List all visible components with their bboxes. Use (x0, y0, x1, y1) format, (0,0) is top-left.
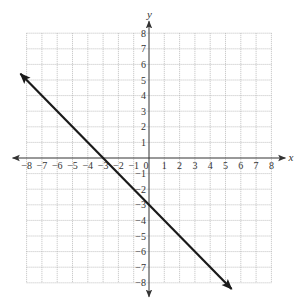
x-tick-label: 4 (208, 160, 213, 171)
y-tick-label: 2 (141, 121, 146, 132)
x-tick-label: −4 (82, 160, 93, 171)
y-tick-label: 3 (141, 106, 146, 117)
x-tick-label: 5 (223, 160, 228, 171)
line-series (20, 74, 231, 289)
x-tick-label: 8 (269, 160, 274, 171)
y-tick-label: 6 (141, 59, 146, 70)
plotted-line (20, 74, 231, 289)
x-tick-label: −7 (37, 160, 48, 171)
y-tick-label: −6 (135, 246, 146, 257)
y-tick-label: −4 (135, 215, 146, 226)
x-tick-label: 3 (192, 160, 197, 171)
x-tick-label: 6 (238, 160, 243, 171)
y-tick-label: 4 (141, 90, 146, 101)
y-tick-label: −7 (135, 262, 146, 273)
x-tick-label: 2 (177, 160, 182, 171)
y-tick-label: 1 (141, 137, 146, 148)
y-tick-label: −5 (135, 231, 146, 242)
y-tick-label: −8 (135, 277, 146, 288)
x-tick-label: 1 (162, 160, 167, 171)
x-tick-label: 7 (254, 160, 259, 171)
y-tick-label: −1 (135, 168, 146, 179)
y-tick-label: 5 (141, 75, 146, 86)
axes (13, 21, 286, 297)
y-axis-label: y (146, 8, 152, 20)
x-tick-label: −6 (52, 160, 63, 171)
x-tick-label: −5 (67, 160, 78, 171)
y-tick-label: 7 (141, 43, 146, 54)
x-axis-label: x (287, 151, 293, 163)
y-tick-label: 8 (141, 28, 146, 39)
coordinate-plane: −8−7−6−5−4−3−2−1012345678−8−7−6−5−4−3−2−… (0, 0, 300, 302)
x-tick-label: −8 (21, 160, 32, 171)
